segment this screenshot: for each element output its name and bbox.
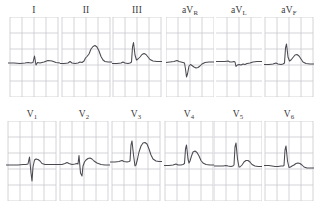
ecg-grid <box>60 17 112 97</box>
ecg-grid <box>8 17 60 97</box>
ecg-grid <box>264 17 314 97</box>
ecg-row-limb-leads: IIIIIIaVRaVLaVF <box>0 0 318 104</box>
ecg-lead-label-avl: aVL <box>216 5 262 16</box>
ecg-grid <box>264 121 314 201</box>
lead-label-subscript: 4 <box>191 113 195 120</box>
ecg-lead-label-v3: V3 <box>110 109 162 120</box>
ecg-lead-label-avr: aVR <box>166 5 214 16</box>
lead-label-subscript: 6 <box>291 113 295 120</box>
ecg-lead-label-v2: V2 <box>58 109 110 120</box>
lead-label-subscript: 5 <box>240 113 244 120</box>
ecg-lead-panel-avr[interactable]: aVR <box>166 0 214 104</box>
ecg-grid <box>216 17 262 97</box>
lead-label-subscript: F <box>293 9 297 16</box>
lead-label-base: aV <box>231 5 242 15</box>
lead-label-subscript: R <box>193 9 198 16</box>
lead-label-base: V <box>184 109 191 119</box>
lead-label-subscript: 3 <box>138 113 142 120</box>
lead-label-base: V <box>131 109 138 119</box>
ecg-lead-panel-v5[interactable]: V5 <box>214 104 262 208</box>
ecg-grid <box>58 121 110 201</box>
lead-label-subscript: 2 <box>86 113 90 120</box>
ecg-lead-panel-v2[interactable]: V2 <box>58 104 110 208</box>
ecg-lead-label-avf: aVF <box>264 5 314 16</box>
ecg-lead-label-v1: V1 <box>6 109 58 120</box>
lead-label-base: V <box>79 109 86 119</box>
lead-label-subscript: 1 <box>34 113 38 120</box>
lead-label-base: aV <box>182 5 193 15</box>
ecg-lead-panel-avf[interactable]: aVF <box>264 0 314 104</box>
lead-label-subscript: L <box>243 9 247 16</box>
ecg-lead-panel-v4[interactable]: V4 <box>164 104 214 208</box>
lead-label-base: V <box>284 109 291 119</box>
lead-label-base: III <box>132 5 142 15</box>
ecg-lead-panel-v6[interactable]: V6 <box>264 104 314 208</box>
ecg-lead-panel-v3[interactable]: V3 <box>110 104 162 208</box>
ecg-lead-panel-v1[interactable]: V1 <box>6 104 58 208</box>
ecg-lead-panel-avl[interactable]: aVL <box>216 0 262 104</box>
ecg-lead-label-iii: III <box>112 5 162 16</box>
ecg-grid <box>166 17 214 97</box>
ecg-grid <box>112 17 162 97</box>
ecg-lead-panel-ii[interactable]: II <box>60 0 112 104</box>
ecg-grid <box>6 121 58 201</box>
lead-label-base: V <box>27 109 34 119</box>
lead-label-base: I <box>32 5 35 15</box>
ecg-grid <box>214 121 262 201</box>
ecg-lead-label-i: I <box>8 5 60 16</box>
ecg-row-chest-leads: V1V2V3V4V5V6 <box>0 104 318 208</box>
ecg-lead-label-v4: V4 <box>164 109 214 120</box>
ecg-lead-panel-iii[interactable]: III <box>112 0 162 104</box>
ecg-lead-label-ii: II <box>60 5 112 16</box>
lead-label-base: V <box>233 109 240 119</box>
ecg-grid <box>164 121 214 201</box>
ecg-grid <box>110 121 162 201</box>
ecg-sheet: IIIIIIaVRaVLaVF V1V2V3V4V5V6 <box>0 0 318 209</box>
ecg-lead-label-v5: V5 <box>214 109 262 120</box>
ecg-lead-label-v6: V6 <box>264 109 314 120</box>
lead-label-base: II <box>83 5 90 15</box>
lead-label-base: aV <box>281 5 292 15</box>
ecg-lead-panel-i[interactable]: I <box>8 0 60 104</box>
